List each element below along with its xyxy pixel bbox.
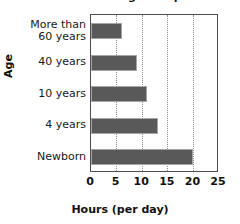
ylabel-4-years: 4 years: [2, 119, 86, 131]
x-tick-0: 0: [78, 175, 102, 188]
ylabel-10-years: 10 years: [2, 88, 86, 100]
bar-4-years: [91, 118, 158, 134]
bar-row: [91, 141, 217, 173]
x-axis-title: Hours (per day): [0, 203, 240, 216]
bar-10-years: [91, 86, 147, 102]
x-tick-10: 10: [129, 175, 153, 188]
bar-row: [91, 15, 217, 47]
bar-newborn: [91, 149, 193, 165]
ylabel-newborn: Newborn: [2, 151, 86, 163]
x-tick-15: 15: [155, 175, 179, 188]
bar-more-than-60-years: [91, 23, 122, 39]
chart-title: Average Sleep Time: [90, 0, 218, 2]
bar-row: [91, 78, 217, 110]
x-tick-25: 25: [206, 175, 230, 188]
bar-row: [91, 110, 217, 142]
bar-chart: Average Sleep Time More than 60 years 40…: [0, 0, 240, 224]
ylabel-line: 10 years: [2, 88, 86, 100]
ylabel-line: Newborn: [2, 151, 86, 163]
y-axis-title: Age: [2, 54, 15, 78]
bar-40-years: [91, 55, 137, 71]
x-tick-5: 5: [104, 175, 128, 188]
ylabel-more-than-60-years: More than 60 years: [2, 19, 86, 42]
bar-row: [91, 47, 217, 79]
x-tick-20: 20: [180, 175, 204, 188]
ylabel-line: More than: [2, 19, 86, 31]
ylabel-line: 4 years: [2, 119, 86, 131]
ylabel-line: 60 years: [2, 31, 86, 43]
plot-area: [90, 14, 218, 172]
